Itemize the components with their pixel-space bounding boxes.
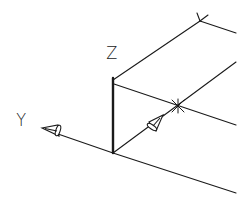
middle-edge-line (114, 84, 236, 125)
bottom-edge-line (113, 153, 236, 193)
top-right-edge-line (200, 21, 236, 33)
y-axis-line (58, 134, 113, 153)
x-arrow-cone-icon (146, 115, 163, 132)
ucs-drawing (0, 0, 246, 207)
intersection-marker-icon (172, 99, 184, 113)
top-corner-tick (197, 13, 200, 21)
y-arrow-cone-icon (42, 125, 62, 137)
x-axis-line (113, 62, 236, 153)
z-axis-label: Z (106, 45, 117, 62)
y-axis-label: Y (16, 112, 26, 129)
top-edge-line (113, 21, 200, 80)
top-corner-tick-2 (200, 15, 208, 21)
diagram-canvas: Z Y (0, 0, 246, 207)
